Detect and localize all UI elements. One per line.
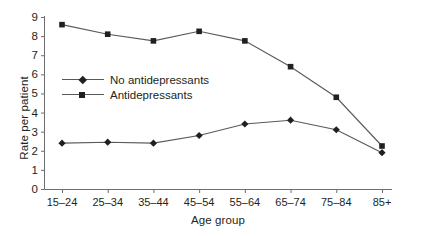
legend-marker bbox=[78, 76, 86, 84]
data-point-marker bbox=[242, 38, 248, 44]
axis-lines bbox=[41, 16, 392, 193]
data-point-marker bbox=[151, 38, 157, 44]
data-point-marker bbox=[378, 149, 385, 156]
legend-label: No antidepressants bbox=[110, 74, 209, 86]
legend-label: Antidepressants bbox=[110, 89, 192, 101]
data-point-marker bbox=[104, 139, 111, 146]
data-point-marker bbox=[105, 31, 111, 37]
data-point-marker bbox=[241, 120, 248, 127]
legend-square-icon bbox=[62, 89, 104, 101]
data-point-marker bbox=[288, 64, 294, 70]
data-point-marker bbox=[58, 140, 65, 147]
data-point-marker bbox=[287, 117, 294, 124]
data-point-marker bbox=[59, 22, 65, 28]
data-point-marker bbox=[150, 140, 157, 147]
data-point-marker bbox=[333, 126, 340, 133]
plot-area bbox=[0, 0, 436, 236]
chart-container: Rate per patient 0123456789 15–2425–3435… bbox=[0, 0, 436, 236]
data-point-marker bbox=[196, 132, 203, 139]
data-point-marker bbox=[379, 143, 385, 149]
legend-item: Antidepressants bbox=[62, 87, 209, 102]
legend-marker bbox=[79, 92, 85, 98]
data-point-marker bbox=[333, 94, 339, 100]
legend-diamond-icon bbox=[62, 74, 104, 86]
series-line bbox=[62, 120, 382, 152]
legend-item: No antidepressants bbox=[62, 72, 209, 87]
data-point-marker bbox=[196, 29, 202, 35]
legend: No antidepressantsAntidepressants bbox=[62, 72, 209, 102]
